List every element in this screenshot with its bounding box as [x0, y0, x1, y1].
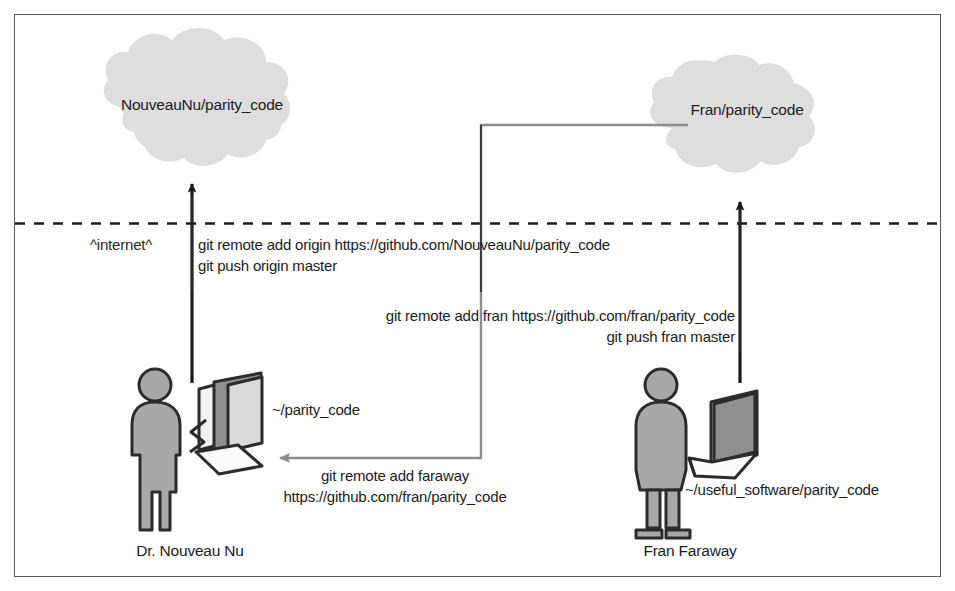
cloud-right-label: Fran/parity_code [672, 100, 822, 120]
actor-right-repo-path: ~/useful_software/parity_code [685, 480, 879, 500]
command-push-fran: git push fran master [300, 327, 735, 347]
command-remote-add-faraway-url: https://github.com/fran/parity_code [230, 487, 560, 507]
command-remote-add-fran: git remote add fran https://github.com/f… [300, 306, 735, 326]
command-remote-add-faraway: git remote add faraway [230, 466, 560, 486]
internet-boundary-label: ^internet^ [90, 235, 152, 255]
command-remote-add-origin: git remote add origin https://github.com… [198, 235, 610, 255]
actor-left-name: Dr. Nouveau Nu [85, 541, 295, 561]
command-push-origin: git push origin master [198, 256, 337, 276]
actor-right-name: Fran Faraway [600, 541, 780, 561]
cloud-left-label: NouveauNu/parity_code [112, 95, 292, 115]
actor-left-repo-path: ~/parity_code [272, 400, 360, 420]
diagram-figure: NouveauNu/parity_code Fran/parity_code ^… [0, 0, 955, 591]
